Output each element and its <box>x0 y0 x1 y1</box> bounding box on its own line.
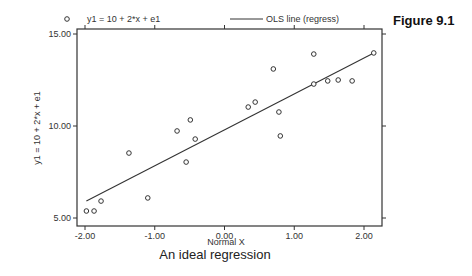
data-point <box>277 110 282 115</box>
data-point <box>92 209 97 214</box>
data-point <box>278 134 283 139</box>
data-point <box>336 78 341 83</box>
legend-line-label: OLS line (regress) <box>266 14 339 24</box>
legend-markers-label: y1 = 10 + 2*x + e1 <box>87 14 160 24</box>
y-axis-title: y1 = 10 + 2*x + e1 <box>32 91 42 164</box>
data-point <box>271 67 276 72</box>
x-tick-label: 1.00 <box>285 231 303 241</box>
legend-marker-icon <box>65 17 70 22</box>
data-point <box>371 51 376 56</box>
legend: y1 = 10 + 2*x + e1 OLS line (regress) <box>65 14 339 24</box>
data-point <box>311 82 316 87</box>
x-tick-label: -1.00 <box>144 231 165 241</box>
figure-label: Figure 9.1 <box>393 13 454 28</box>
data-point <box>127 151 132 156</box>
x-tick-label: 2.00 <box>355 231 373 241</box>
data-point <box>253 100 258 105</box>
data-point <box>184 160 189 165</box>
regression-chart: -2.00-1.000.001.002.00 5.0010.0015.00 y1… <box>0 0 472 276</box>
data-point <box>193 137 198 142</box>
y-tick-label: 15.00 <box>48 29 71 39</box>
data-point <box>99 199 104 204</box>
x-tick-label: -2.00 <box>75 231 96 241</box>
ols-line <box>86 53 373 201</box>
y-axis-ticks: 5.0010.0015.00 <box>48 29 386 223</box>
y-tick-label: 5.00 <box>53 213 71 223</box>
data-point <box>325 79 330 84</box>
scatter-points <box>84 51 376 214</box>
x-axis-title: Normal X <box>207 237 245 247</box>
data-point <box>84 209 89 214</box>
chart-caption: An ideal regression <box>159 247 270 262</box>
x-axis-ticks: -2.00-1.000.001.002.00 <box>75 25 373 241</box>
data-point <box>311 52 316 57</box>
data-point <box>350 79 355 84</box>
ols-regression-line <box>86 53 373 201</box>
data-point <box>145 196 150 201</box>
data-point <box>188 118 193 123</box>
data-point <box>175 129 180 134</box>
y-tick-label: 10.00 <box>48 121 71 131</box>
data-point <box>246 105 251 110</box>
